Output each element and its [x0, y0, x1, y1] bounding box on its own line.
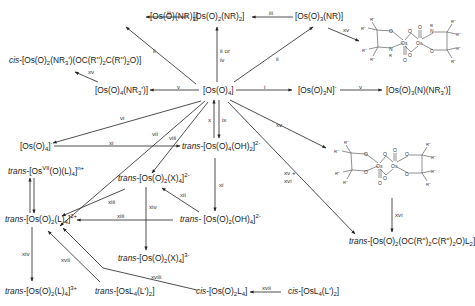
svg-text:Os: Os: [416, 40, 423, 46]
label-xii: xii: [180, 192, 186, 198]
svg-text:O: O: [408, 52, 412, 58]
svg-text:O: O: [378, 180, 382, 186]
svg-text:O: O: [393, 147, 397, 153]
dimer-diolate-atoms: R" R" R" R" O O Os Os O O O O O O R" R" …: [334, 140, 436, 187]
node-cis-os-o2-nr3-diol: cis-[Os(O)2(NR3')(OC(R'')2C(R'')2O)]: [9, 56, 141, 64]
arrow-vi: [53, 101, 201, 143]
node-trans-osl4-l2: trans-[OsL4(L')2]: [95, 287, 154, 295]
arrow-ii-b: [234, 27, 313, 82]
node-cis-os-o2-l4: cis-[Os(O)2L4]: [196, 287, 247, 295]
svg-text:R": R": [370, 17, 375, 22]
svg-text:R": R": [344, 140, 349, 145]
svg-text:R": R": [426, 142, 431, 147]
svg-text:O: O: [418, 24, 422, 30]
label-xvii-b: xvii: [262, 285, 271, 291]
label-i: i: [264, 84, 265, 90]
node-trans-osvii-o-l4: trans-[OsVII(O)(L)4]n+: [8, 167, 84, 175]
node-os-o4-nr3: [Os(O)4(NR3')]: [95, 86, 148, 94]
label-xiii-a: xiii: [108, 199, 115, 205]
svg-text:R": R": [456, 46, 461, 51]
label-xviii: xviii: [151, 274, 161, 280]
svg-text:O: O: [389, 28, 393, 34]
label-xvii-a: xvii: [61, 257, 70, 263]
label-iii-b: iii: [269, 10, 273, 16]
label-v-a: v: [177, 84, 180, 90]
svg-text:O: O: [364, 169, 368, 175]
dimer-amino-structure: [368, 22, 456, 58]
label-xv-xvi-1: xv +: [284, 170, 296, 176]
label-viii: viii: [169, 135, 176, 141]
svg-text:R": R": [334, 149, 339, 154]
svg-text:R": R": [451, 59, 456, 64]
label-xvi: xvi: [395, 212, 403, 218]
label-xv-b: xv: [88, 69, 94, 75]
svg-text:O: O: [405, 151, 409, 157]
node-trans-os-o2-l4-3plus: trans-[Os(O)2(L)4]3+: [5, 287, 77, 295]
label-x: x: [208, 117, 211, 123]
svg-text:R": R": [426, 182, 431, 187]
node-os-o3-nr: [Os(O)3(NR)]: [295, 12, 343, 20]
svg-text:N: N: [430, 28, 434, 34]
svg-text:R": R": [456, 32, 461, 37]
arrow-xiii-a: [62, 189, 125, 216]
label-xv-c: xv: [276, 122, 282, 128]
node-os-o-nr3: [Os(O)(NR)3]: [150, 12, 198, 20]
svg-text:Os: Os: [401, 40, 408, 46]
node-trans-os-o2-diol-l2: trans-[Os(O)2(OC(R'')2C(R'')2O)L2]: [349, 237, 475, 245]
label-v-b: v: [359, 84, 362, 90]
svg-text:O: O: [383, 175, 387, 181]
svg-text:R": R": [431, 155, 436, 160]
svg-text:N: N: [389, 46, 393, 52]
node-trans-os-o2-oh4: trans- [Os(O)2(OH)4]2-: [180, 215, 261, 223]
label-ii-or-iv-1: ii or: [220, 48, 230, 54]
svg-text:R": R": [431, 169, 436, 174]
label-ii-or-iv-2: iv: [220, 57, 224, 63]
svg-text:O: O: [383, 151, 387, 157]
node-trans-os-o2-x4-3minus: trans-[Os(O)2(X)4]3-: [118, 254, 190, 262]
svg-text:O: O: [364, 151, 368, 157]
label-xv-a: xv: [343, 27, 349, 33]
svg-text:O: O: [430, 48, 434, 54]
svg-text:R: R: [389, 53, 392, 58]
svg-text:R": R": [370, 57, 375, 62]
node-os-o3-n-nr3: [Os(O)3(N)(NR3')]: [386, 86, 451, 94]
svg-text:O: O: [403, 57, 407, 63]
svg-text:O: O: [405, 171, 409, 177]
node-os-o4-central: [Os(O)4]: [203, 86, 234, 94]
node-trans-os-o4-oh2: trans-[Os(O)4(OH)2]2-: [182, 142, 260, 150]
svg-text:R: R: [430, 23, 433, 28]
svg-text:Os: Os: [391, 163, 398, 169]
svg-text:O: O: [408, 28, 412, 34]
label-xi-a: xi: [109, 140, 113, 146]
svg-text:Os: Os: [376, 163, 383, 169]
dimer-amino-atoms: R" R" R" R" O N R Os Os O O O O N R O R"…: [361, 17, 461, 64]
node-os-o2-nr2: [Os(O)2(NR)2]: [193, 12, 244, 20]
label-iii-a: iii: [167, 10, 171, 16]
arrow-xv-b: [75, 72, 98, 82]
label-xiv-b: xiv: [22, 251, 30, 257]
svg-text:R": R": [335, 171, 340, 176]
svg-text:R": R": [362, 48, 367, 53]
label-ii-a: ii: [153, 48, 156, 54]
label-xi-b: xi: [219, 182, 223, 188]
svg-text:R": R": [451, 19, 456, 24]
label-vi: vi: [120, 115, 124, 121]
label-xiii-b: xiii: [117, 213, 124, 219]
label-xiv-a: xiv: [149, 204, 157, 210]
label-vii: vii: [152, 131, 158, 137]
node-os-o3-n: [Os(O)3N]-: [298, 86, 337, 94]
svg-text:R": R": [361, 26, 366, 31]
svg-text:R": R": [343, 180, 348, 185]
node-trans-os-o2-x4-2minus: trans-[Os(O)2(X)4]2-: [118, 174, 190, 182]
label-xv-xvi-2: xvi: [284, 178, 292, 184]
label-ix: ix: [222, 117, 226, 123]
node-os-o4-minus: [Os(O)4]-: [20, 142, 53, 150]
node-cis-osl4-l2: cis-[OsL4(L')2]: [288, 287, 339, 295]
node-trans-os-o2-l4-2plus: trans-[Os(O)2(L)4]2+: [5, 215, 77, 223]
label-ii-b: ii: [276, 56, 279, 62]
